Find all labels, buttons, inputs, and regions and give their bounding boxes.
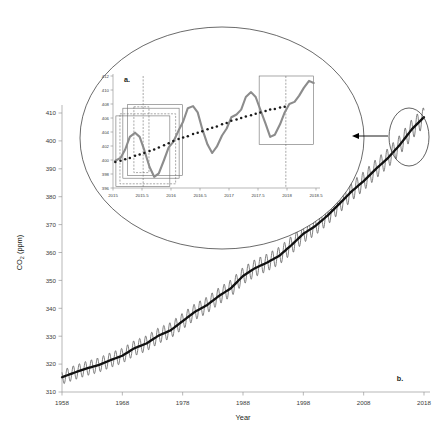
inset-trend-marker (259, 111, 262, 114)
main-y-tick-label: 310 (46, 388, 57, 395)
inset-trend-marker (158, 146, 161, 149)
inset-trend-marker (192, 133, 195, 136)
inset-trend-marker (114, 161, 117, 164)
main-y-axis-title-text: CO2 (ppm) (15, 235, 25, 270)
inset-trend-marker (279, 106, 282, 109)
main-x-tick-label: 1958 (55, 399, 69, 406)
inset-trend-marker (230, 120, 233, 123)
chart-canvas: 3103203303403503603703803904004101958196… (0, 0, 438, 445)
inset-trend-marker (201, 130, 204, 133)
inset-trend-marker (283, 106, 286, 109)
main-x-tick-label: 1988 (236, 399, 250, 406)
inset-trend-marker (177, 138, 180, 141)
main-y-tick-label: 370 (46, 221, 57, 228)
inset-y-tick-label: 412 (102, 74, 110, 79)
inset-trend-marker (138, 153, 141, 156)
inset-y-tick-label: 404 (102, 130, 110, 135)
inset-trend-marker (187, 135, 190, 138)
inset-trend-marker (206, 128, 209, 131)
inset-x-tick-label: 2016.5 (193, 193, 207, 198)
inset-y-tick-label: 396 (102, 186, 110, 191)
inset-trend-marker (264, 110, 267, 113)
inset-y-tick-label: 406 (102, 116, 110, 121)
inset-x-tick-label: 2015.5 (135, 193, 149, 198)
main-y-tick-label: 360 (46, 249, 57, 256)
inset-trend-marker (134, 155, 137, 158)
inset-trend-marker (129, 157, 132, 160)
main-y-tick-label: 350 (46, 277, 57, 284)
inset-trend-marker (216, 125, 219, 128)
main-y-tick-label: 320 (46, 360, 57, 367)
inset-trend-marker (221, 123, 224, 126)
inset-trend-marker (269, 108, 272, 111)
inset-x-tick-label: 2018.5 (309, 193, 323, 198)
main-y-tick-label: 340 (46, 305, 57, 312)
inset-trend-marker (274, 108, 277, 111)
figure-co2-record: 3103203303403503603703803904004101958196… (0, 0, 438, 445)
inset-y-tick-label: 410 (102, 88, 110, 93)
main-x-tick-label: 1998 (296, 399, 310, 406)
main-x-tick-label: 1978 (176, 399, 190, 406)
inset-y-tick-label: 408 (102, 102, 110, 107)
inset-trend-marker (225, 122, 228, 125)
inset-y-tick-label: 402 (102, 144, 110, 149)
main-y-tick-label: 410 (46, 109, 57, 116)
main-y-axis-title: CO2 (ppm) (15, 235, 25, 270)
inset-x-tick-label: 2015 (108, 193, 118, 198)
main-x-axis-title: Year (236, 413, 251, 422)
main-x-tick-label: 1968 (115, 399, 129, 406)
inset-trend-marker (143, 152, 146, 155)
inset-trend-marker (124, 158, 127, 161)
panel-a-label: a. (124, 75, 130, 84)
inset-x-tick-label: 2016 (166, 193, 176, 198)
inset-trend-marker (196, 131, 199, 134)
main-y-tick-label: 390 (46, 165, 57, 172)
main-y-tick-label: 330 (46, 333, 57, 340)
inset-trend-marker (172, 140, 175, 143)
inset-x-tick-label: 2018 (282, 193, 292, 198)
inset-x-tick-label: 2017.5 (251, 193, 265, 198)
main-y-tick-label: 380 (46, 193, 57, 200)
inset-y-tick-label: 400 (102, 158, 110, 163)
inset-trend-marker (163, 144, 166, 147)
inset-x-tick-label: 2017 (224, 193, 234, 198)
inset-trend-marker (250, 114, 253, 117)
inset-trend-marker (182, 136, 185, 139)
inset-trend-marker (148, 150, 151, 153)
main-x-tick-label: 2008 (357, 399, 371, 406)
inset-trend-marker (254, 113, 257, 116)
panel-b-label: b. (397, 374, 403, 383)
inset-trend-marker (153, 148, 156, 151)
main-x-tick-label: 2018 (417, 399, 431, 406)
main-y-tick-label: 400 (46, 137, 57, 144)
inset-y-tick-label: 398 (102, 172, 110, 177)
inset-trend-marker (235, 118, 238, 121)
inset-trend-marker (211, 127, 214, 130)
inset-trend-marker (240, 117, 243, 120)
inset-trend-marker (119, 159, 122, 162)
inset-trend-marker (245, 115, 248, 118)
inset-trend-marker (167, 142, 170, 145)
